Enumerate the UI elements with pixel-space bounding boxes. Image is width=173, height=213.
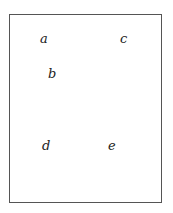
label-c: c [120,32,127,45]
diagram-frame [9,14,162,203]
label-e: e [108,139,116,152]
label-a: a [40,32,48,45]
label-d: d [42,139,50,152]
label-b: b [48,67,56,80]
